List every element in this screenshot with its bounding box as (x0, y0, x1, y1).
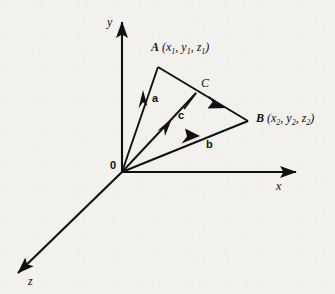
point-a-label: A (x1, y1, z1) (151, 41, 209, 56)
point-a-letter: A (151, 40, 159, 54)
point-a-sub-x: 1 (171, 47, 175, 56)
vector-a (122, 67, 158, 172)
point-b-sub-y: 2 (292, 118, 296, 127)
vector-a-label: a (152, 93, 158, 104)
point-b-sub-z: 2 (306, 118, 310, 127)
y-axis-label: y (107, 16, 112, 28)
vector-b (122, 121, 248, 172)
point-a-coords: (x1, y1, z1) (159, 40, 209, 54)
figure-root: y x z 0 A (x1, y1, z1) B (x2, y2, z2) C … (0, 0, 335, 294)
point-a-sub-z: 1 (201, 47, 205, 56)
z-axis (18, 172, 122, 273)
vector-c-label: c (178, 110, 184, 121)
point-b-sub-x: 2 (276, 118, 280, 127)
c-tick (184, 93, 196, 109)
vector-b-label: b (206, 139, 213, 150)
point-b-coords: (x2, y2, z2) (264, 111, 314, 125)
point-c-label: C (201, 77, 209, 89)
segment-ab-arrowhead (208, 96, 227, 109)
origin-label: 0 (110, 160, 116, 171)
z-axis-label: z (28, 275, 33, 287)
point-b-letter: B (256, 111, 264, 125)
x-axis-label: x (276, 180, 281, 192)
point-b-label: B (x2, y2, z2) (256, 112, 314, 127)
vector-c (122, 93, 196, 172)
point-a-sub-y: 1 (187, 47, 191, 56)
